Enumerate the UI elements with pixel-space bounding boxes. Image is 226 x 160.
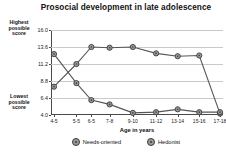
data-point-center: [219, 111, 221, 113]
x-axis-tick-mark: [54, 115, 55, 117]
x-axis-tick-mark: [156, 115, 157, 117]
legend-item[interactable]: Needs-oriented: [72, 138, 121, 146]
legend-marker-icon: [147, 138, 155, 146]
data-point-center: [132, 112, 134, 114]
x-axis-tick-mark: [110, 115, 111, 117]
legend-label: Hedonist: [158, 139, 180, 145]
y-axis-tick-label: 8.8: [41, 78, 49, 84]
series-layer: [51, 30, 223, 115]
data-point-center: [177, 55, 179, 57]
x-axis-tick-label: 7-8: [106, 118, 113, 124]
data-point-center: [109, 47, 111, 49]
x-axis-tick-mark: [178, 115, 179, 117]
series-line: [54, 47, 220, 114]
data-point-center: [155, 53, 157, 55]
data-point-center: [177, 109, 179, 111]
x-axis-tick-label: 13-14: [171, 118, 184, 124]
chart-title: Prosocial development in late adolescenc…: [30, 3, 222, 13]
data-point-center: [109, 104, 111, 106]
y-axis-tick-label: 16.0: [38, 27, 49, 33]
data-point-center: [91, 46, 93, 48]
y-axis-lowest-note-line3: score: [2, 105, 36, 111]
data-point-center: [132, 46, 134, 48]
y-axis-highest-note-line3: score: [2, 31, 36, 37]
data-point-center: [76, 63, 78, 65]
data-point-center: [198, 55, 200, 57]
legend-item[interactable]: Hedonist: [147, 138, 180, 146]
data-point-center: [53, 86, 55, 88]
x-axis-tick-mark: [91, 115, 92, 117]
y-axis-tick-mark: [49, 115, 51, 116]
x-axis-tick-label: 15-16: [193, 118, 206, 124]
x-axis-tick-label: 9-10: [128, 118, 138, 124]
data-point-center: [198, 111, 200, 113]
y-axis-tick-label: 6.4: [41, 95, 49, 101]
legend-label: Needs-oriented: [83, 139, 121, 145]
y-axis-tick-label: 13.6: [38, 44, 49, 50]
chart-legend: Needs-orientedHedonist: [30, 138, 222, 146]
x-axis-tick-label: 4-5: [50, 118, 57, 124]
x-axis-tick-label: 17-18: [214, 118, 226, 124]
y-axis-tick-label: 11.2: [38, 61, 48, 67]
data-point-center: [91, 99, 93, 101]
x-axis-tick-label: 11-12: [150, 118, 162, 124]
y-axis-lowest-note: Lowest possible score: [2, 94, 36, 111]
data-point-center: [155, 111, 157, 113]
data-point-center: [76, 82, 78, 84]
data-point-center: [53, 53, 55, 55]
x-axis-tick-mark: [76, 115, 77, 117]
chart-container: Prosocial development in late adolescenc…: [0, 0, 226, 160]
y-axis-highest-note: Highest possible score: [2, 20, 36, 37]
plot-area: 4.06.48.811.213.616.0 4-55-56-57-89-1011…: [51, 30, 223, 115]
x-axis-title: Age in years: [51, 127, 223, 133]
x-axis-tick-label: 6-5: [88, 118, 95, 124]
y-axis-tick-label: 4.0: [41, 112, 49, 118]
x-axis-tick-label: 5-5: [73, 118, 80, 124]
x-axis-tick-mark: [199, 115, 200, 117]
legend-marker-icon: [72, 138, 80, 146]
